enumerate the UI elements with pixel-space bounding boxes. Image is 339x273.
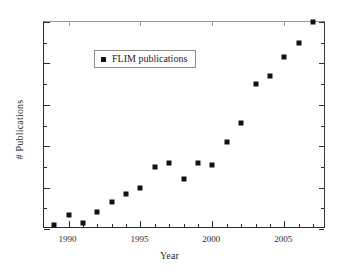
data-point-marker [109, 200, 114, 205]
data-point-marker [181, 177, 186, 182]
x-tick-minor [155, 224, 156, 227]
right-tick-minor [321, 126, 324, 127]
x-tick-minor [112, 224, 113, 227]
data-point-marker [66, 212, 71, 217]
data-point-marker [210, 162, 215, 167]
x-tick-minor [270, 224, 271, 227]
y-tick-minor [44, 208, 47, 209]
data-point-marker [239, 121, 244, 126]
x-tick-label: 1995 [119, 234, 159, 244]
x-tick-minor [241, 224, 242, 227]
right-tick-minor [321, 208, 324, 209]
data-point-marker [267, 73, 272, 78]
legend-box: FLIM publications [94, 50, 196, 68]
data-point-marker [296, 40, 301, 45]
top-tick-major [69, 22, 70, 26]
y-tick-minor [44, 126, 47, 127]
y-tick-minor [44, 43, 47, 44]
x-tick-minor [169, 224, 170, 227]
x-tick-minor [184, 224, 185, 227]
x-tick-minor [227, 224, 228, 227]
legend-marker-square-icon [101, 57, 106, 62]
data-point-marker [253, 82, 258, 87]
data-point-marker [282, 55, 287, 60]
right-tick-minor [321, 84, 324, 85]
data-point-marker [124, 191, 129, 196]
top-tick-major [284, 22, 285, 26]
x-tick-minor [198, 224, 199, 227]
x-tick-label: 2000 [191, 234, 231, 244]
data-point-marker [224, 140, 229, 145]
plot-area: FLIM publications [43, 21, 325, 228]
y-tick-major [44, 22, 50, 23]
y-tick-minor [44, 167, 47, 168]
data-point-marker [80, 220, 85, 225]
data-point-marker [152, 164, 157, 169]
x-tick-minor [313, 224, 314, 227]
data-point-marker [195, 160, 200, 165]
y-axis-title: # Publications [14, 75, 25, 185]
data-point-marker [52, 222, 57, 227]
data-point-marker [95, 210, 100, 215]
y-tick-minor [44, 84, 47, 85]
right-tick-major [319, 22, 324, 23]
x-tick-minor [126, 224, 127, 227]
right-tick-major [319, 105, 324, 106]
x-tick-major [284, 221, 285, 227]
x-tick-label: 2005 [263, 234, 303, 244]
legend-entry-label: FLIM publications [112, 54, 187, 64]
x-tick-minor [256, 224, 257, 227]
right-tick-major [319, 146, 324, 147]
top-tick-major [140, 22, 141, 26]
x-axis-title: Year [0, 250, 339, 261]
data-point-marker [167, 160, 172, 165]
data-point-marker [138, 185, 143, 190]
x-tick-minor [299, 224, 300, 227]
right-tick-minor [321, 167, 324, 168]
x-tick-major [69, 221, 70, 227]
y-tick-major [44, 229, 50, 230]
y-tick-major [44, 105, 50, 106]
right-tick-major [319, 188, 324, 189]
right-tick-major [319, 229, 324, 230]
x-tick-major [140, 221, 141, 227]
y-tick-major [44, 63, 50, 64]
x-tick-minor [97, 224, 98, 227]
top-tick-major [212, 22, 213, 26]
data-point-marker [311, 20, 316, 25]
x-tick-label: 1990 [48, 234, 88, 244]
right-tick-minor [321, 43, 324, 44]
y-tick-major [44, 146, 50, 147]
figure-canvas: FLIM publications 1990199520002005 Year … [0, 0, 339, 273]
x-tick-major [212, 221, 213, 227]
right-tick-major [319, 63, 324, 64]
y-tick-major [44, 188, 50, 189]
